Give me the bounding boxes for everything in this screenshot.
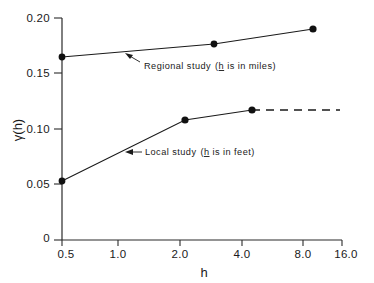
y-tick-label-005: 0.05 <box>26 178 50 190</box>
local-study-point <box>181 116 188 123</box>
y-tick-label-010: 0.10 <box>26 123 50 135</box>
x-tick-marks <box>62 240 342 246</box>
regional-study-line <box>62 29 313 57</box>
local-annotation-rest: is in feet <box>210 147 252 157</box>
local-study-point <box>59 178 66 185</box>
local-study-point <box>248 106 255 113</box>
regional-annotation-main: Regional study <box>144 61 211 71</box>
local-annotation-arrow-icon <box>125 149 133 155</box>
regional-study-point <box>309 25 316 32</box>
regional-annotation-arrow-icon <box>125 53 133 59</box>
series-local-study <box>59 106 340 184</box>
chart-canvas: 0.20 0.15 0.10 0.05 0 0.5 1.0 2.0 4.0 8.… <box>0 0 374 283</box>
y-tick-label-015: 0.15 <box>26 67 50 79</box>
x-axis-title: h <box>200 265 207 280</box>
regional-annotation-text: Regional study(h is in miles) <box>144 61 276 71</box>
x-tick-label-20: 2.0 <box>172 248 189 260</box>
y-tick-marks <box>54 18 62 240</box>
local-annotation-main: Local study <box>145 147 196 157</box>
x-tick-label-10: 1.0 <box>110 248 127 260</box>
local-annotation: Local study(h is in feet) <box>125 147 255 157</box>
local-annotation-text: Local study(h is in feet) <box>145 147 255 157</box>
x-tick-labels: 0.5 1.0 2.0 4.0 8.0 16.0 <box>58 248 358 260</box>
regional-study-point <box>59 54 66 61</box>
y-axis-title: γ(h) <box>10 119 25 141</box>
series-regional-study <box>59 25 317 60</box>
local-study-line <box>62 110 252 181</box>
y-tick-labels: 0.20 0.15 0.10 0.05 0 <box>26 12 50 244</box>
x-tick-label-160: 16.0 <box>334 248 358 260</box>
variogram-figure: 0.20 0.15 0.10 0.05 0 0.5 1.0 2.0 4.0 8.… <box>0 0 374 283</box>
y-tick-label-020: 0.20 <box>26 12 50 24</box>
y-tick-label-000: 0 <box>43 232 50 244</box>
regional-annotation-paren-close: ) <box>272 61 276 71</box>
axis-group <box>62 18 342 240</box>
x-tick-label-80: 8.0 <box>295 248 312 260</box>
regional-annotation: Regional study(h is in miles) <box>125 53 276 71</box>
regional-annotation-rest: is in miles <box>224 61 272 71</box>
x-tick-label-40: 4.0 <box>234 248 251 260</box>
regional-study-point <box>211 41 218 48</box>
x-tick-label-05: 0.5 <box>58 248 75 260</box>
local-annotation-paren-close: ) <box>251 147 255 157</box>
